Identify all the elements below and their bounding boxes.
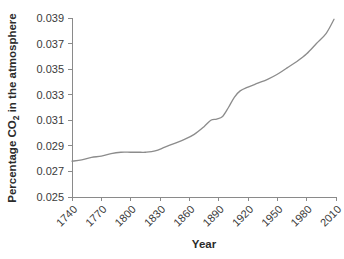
chart-canvas: 0.0250.0270.0290.0310.0330.0350.0370.039… — [0, 0, 344, 259]
y-tick-label: 0.035 — [36, 63, 64, 75]
x-tick-label: 1890 — [200, 203, 226, 229]
data-series-group — [72, 19, 334, 161]
x-tick-label: 1800 — [112, 203, 138, 229]
x-tick-label: 2010 — [318, 203, 344, 229]
y-tick-label: 0.031 — [36, 114, 64, 126]
x-tick-label: 1860 — [171, 203, 197, 229]
y-tick-label: 0.039 — [36, 12, 64, 24]
x-tick-label: 1830 — [142, 203, 168, 229]
x-tick-label: 1770 — [83, 203, 109, 229]
y-axis — [68, 18, 72, 197]
x-tick-label: 1920 — [230, 203, 256, 229]
y-axis-title: Percentage CO2 in the atmosphere — [6, 13, 21, 202]
x-axis-title: Year — [192, 238, 217, 250]
x-tick-label: 1980 — [288, 203, 314, 229]
x-tick-label: 1740 — [54, 203, 80, 229]
y-tick-label: 0.033 — [36, 89, 64, 101]
y-tick-label: 0.037 — [36, 38, 64, 50]
y-tick-label: 0.029 — [36, 140, 64, 152]
x-tick-label: 1950 — [259, 203, 285, 229]
x-tick-labels: 1740177018001830186018901920195019802010 — [54, 203, 344, 229]
y-tick-labels: 0.0250.0270.0290.0310.0330.0350.0370.039 — [36, 12, 64, 203]
y-tick-label: 0.027 — [36, 165, 64, 177]
y-tick-label: 0.025 — [36, 191, 64, 203]
data-line — [72, 19, 334, 161]
x-axis — [72, 197, 336, 201]
y-axis-title-suffix: in the atmosphere — [6, 13, 18, 115]
co2-line-chart: 0.0250.0270.0290.0310.0330.0350.0370.039… — [0, 0, 344, 259]
y-axis-title-prefix: Percentage CO — [6, 120, 18, 203]
